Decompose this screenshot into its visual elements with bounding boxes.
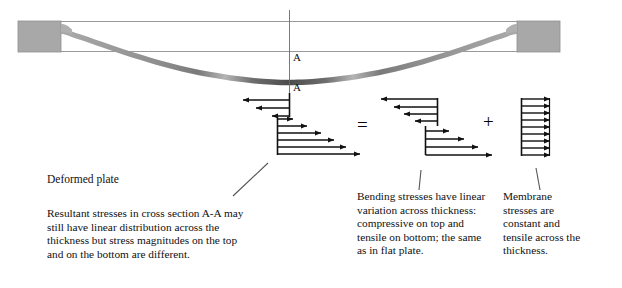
leader-line-membrane [536, 168, 540, 190]
figure-canvas: A A [0, 0, 622, 288]
plus-operator: + [483, 111, 494, 133]
leader-line-bending [419, 170, 421, 190]
bending-stress-diagram [381, 98, 492, 155]
equals-operator: = [357, 114, 368, 136]
membrane-stress-diagram [522, 98, 551, 156]
caption-resultant-stresses: Resultant stresses in cross section A-A … [47, 207, 252, 261]
resultant-stress-diagram [243, 93, 360, 155]
caption-deformed-plate: Deformed plate [47, 173, 247, 185]
caption-bending-stresses: Bending stresses have linear variation a… [357, 190, 487, 258]
caption-membrane-stresses: Membrane stresses are constant and tensi… [503, 190, 585, 258]
